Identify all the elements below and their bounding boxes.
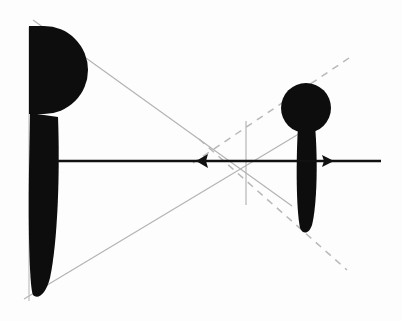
far-figure-head xyxy=(281,83,331,133)
figure-canvas xyxy=(0,0,402,321)
perspective-diagram xyxy=(0,0,402,321)
